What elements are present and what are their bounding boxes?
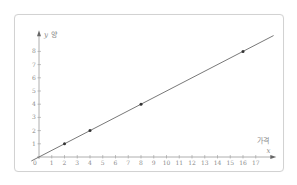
x-tick-label: 2 xyxy=(63,159,67,166)
x-tick-label: 12 xyxy=(188,159,196,166)
data-series xyxy=(31,36,273,161)
y-tick-label: 4 xyxy=(32,100,36,107)
data-point xyxy=(140,103,143,106)
y-axis-title: 양 xyxy=(51,31,58,39)
y-tick-label: 1 xyxy=(32,140,36,147)
y-tick-label: 6 xyxy=(32,74,36,81)
chart-plot: 1234567891011121314151617123456780 y 양 가… xyxy=(0,0,297,185)
series-line xyxy=(31,36,273,161)
x-tick-label: 9 xyxy=(152,159,156,166)
x-tick-label: 8 xyxy=(139,159,143,166)
x-tick-label: 3 xyxy=(75,159,79,166)
x-tick-label: 1 xyxy=(50,159,54,166)
y-tick-label: 3 xyxy=(32,113,36,120)
y-axis-arrow-icon xyxy=(37,30,41,36)
x-tick-label: 14 xyxy=(214,159,222,166)
y-tick-label: 8 xyxy=(32,47,36,54)
x-tick-label: 16 xyxy=(239,159,247,166)
x-axis-variable: x xyxy=(267,147,271,155)
x-tick-label: 17 xyxy=(252,159,260,166)
x-tick-label: 13 xyxy=(201,159,209,166)
y-tick-label: 7 xyxy=(32,61,36,68)
x-tick-label: 4 xyxy=(88,159,92,166)
data-point xyxy=(89,129,92,132)
x-tick-label: 11 xyxy=(175,159,183,166)
y-axis-variable: y xyxy=(43,31,49,39)
x-tick-label: 6 xyxy=(114,159,118,166)
x-tick-label: 10 xyxy=(163,159,171,166)
y-tick-label: 2 xyxy=(32,127,36,134)
x-axis-arrow-icon xyxy=(270,155,276,159)
x-axis-title: 가격 xyxy=(257,136,269,145)
data-point xyxy=(63,142,66,145)
x-tick-label: 7 xyxy=(126,159,130,166)
tick-marks: 1234567891011121314151617123456780 xyxy=(32,47,260,166)
x-tick-label: 15 xyxy=(226,159,234,166)
data-point xyxy=(242,50,245,53)
x-tick-label: 5 xyxy=(101,159,105,166)
y-tick-label: 5 xyxy=(32,87,36,94)
